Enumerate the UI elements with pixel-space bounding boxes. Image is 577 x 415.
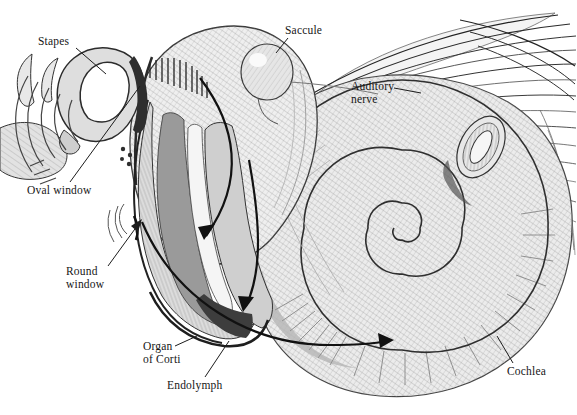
ossicles [0,48,148,180]
label-round-window: Round window [66,265,104,290]
label-organ-of-corti: Organ of Corti [143,340,181,365]
label-cochlea: Cochlea [507,365,546,378]
inner-ear-drawing [0,0,577,415]
label-oval-window: Oval window [27,184,91,197]
label-endolymph: Endolymph [167,379,222,392]
round-window-vibration-arcs [108,204,127,242]
incus-prong-2 [42,58,58,102]
leader-endolymph [205,341,229,377]
label-saccule: Saccule [285,24,322,37]
label-stapes: Stapes [38,35,69,48]
inner-ear-illustration: Stapes Saccule Auditory nerve Oval windo… [0,0,577,415]
label-auditory-nerve: Auditory nerve [351,80,394,105]
